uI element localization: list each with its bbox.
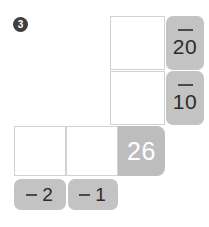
sublabel-right: 1 (68, 179, 118, 210)
answer-cell-row2[interactable] (110, 71, 165, 125)
exercise-number-badge: 3 (13, 17, 28, 32)
worksheet-exercise: 3 20 10 26 2 1 (0, 0, 209, 227)
operand-value-row2: 10 (173, 91, 197, 112)
operand-tab-row2: 10 (166, 71, 204, 125)
minus-icon (79, 194, 90, 196)
sublabel-left: 2 (14, 179, 66, 210)
minus-icon (178, 84, 193, 86)
result-value-box: 26 (118, 126, 165, 176)
operand-tab-row1: 20 (166, 16, 204, 70)
minus-icon (26, 194, 37, 196)
operand-value-row1: 20 (173, 36, 197, 57)
answer-cell-bottom-right[interactable] (66, 126, 118, 176)
minus-icon (178, 29, 193, 31)
answer-cell-bottom-left[interactable] (14, 126, 66, 176)
sublabel-right-value: 1 (95, 185, 107, 204)
sublabel-left-value: 2 (42, 185, 54, 204)
answer-cell-row1[interactable] (110, 16, 165, 70)
